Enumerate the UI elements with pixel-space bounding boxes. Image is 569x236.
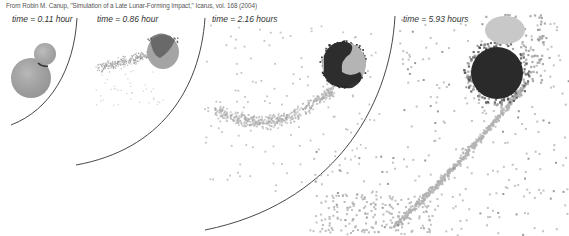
simulation-panels-graphic <box>0 0 569 236</box>
panel-2-time-label: time = 0.86 hour <box>97 13 158 24</box>
panel-1-proto-earth-and-impactor <box>11 43 56 98</box>
panel-4-time-label: time = 5.93 hours <box>403 13 468 24</box>
panel-3-planet-body <box>322 42 366 88</box>
panel-3-time-label: time = 2.16 hours <box>212 13 277 24</box>
panel-1-time-label: time = 0.11 hour <box>12 13 73 24</box>
panel-2-boundary-arc <box>76 18 205 165</box>
lunar-impact-simulation-figure: From Robin M. Canup, "Simulation of a La… <box>0 0 569 236</box>
panel-4-planet-body <box>471 16 525 99</box>
panel-3-boundary-arc <box>205 16 395 230</box>
